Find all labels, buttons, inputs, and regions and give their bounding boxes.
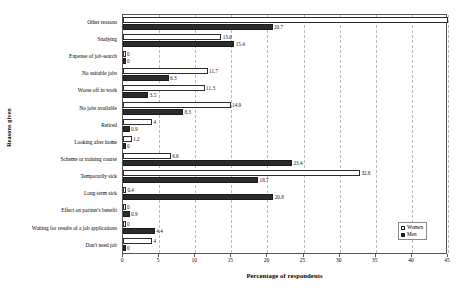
x-axis-tick-label: 25: [300, 258, 305, 263]
bar-men: [123, 228, 155, 234]
bar-women: [123, 34, 221, 40]
x-axis-ticks: 051015202530354045: [122, 254, 447, 266]
bar-value-label: 11.7: [209, 69, 218, 74]
bar-men: [123, 194, 273, 200]
bar-women: [123, 68, 208, 74]
y-axis-title-text: Reasons given: [5, 108, 12, 147]
bar-value-label: 0.9: [131, 212, 137, 217]
bar-value-label: 6.6: [172, 154, 178, 159]
y-axis-tick-label: Temporarily sick: [16, 168, 120, 185]
bar-value-label: 0: [127, 52, 130, 57]
bar-men: [123, 109, 183, 115]
bar-value-label: 0: [127, 144, 130, 149]
bar-chart: Reasons given Other reasonsStudyingExpen…: [0, 0, 457, 294]
x-axis-tick-label: 10: [192, 258, 197, 263]
y-axis-tick-label: Scheme or training course: [16, 151, 120, 168]
bar-value-label: 32.8: [361, 171, 370, 176]
bar-value-label: 0.4: [127, 188, 133, 193]
legend-swatch-icon: [401, 233, 405, 237]
bar-group: 20.7: [123, 15, 446, 32]
bar-value-label: 0.9: [131, 127, 137, 132]
x-axis-tick-label: 30: [336, 258, 341, 263]
y-axis-tick-label: Retired: [16, 117, 120, 134]
bar-value-label: 23.4: [294, 161, 303, 166]
bar-value-label: 18.7: [260, 178, 269, 183]
bar-value-label: 4: [153, 239, 156, 244]
plot-area: 20.713.615.40011.76.311.33.514.98.340.91…: [122, 14, 447, 254]
bar-value-label: 11.3: [206, 86, 215, 91]
bar-value-label: 20.7: [274, 25, 283, 30]
x-axis-tick-label: 45: [444, 258, 449, 263]
x-axis-tick-label: 35: [372, 258, 377, 263]
bar-value-label: 3.5: [150, 93, 156, 98]
bar-value-label: 0: [127, 205, 130, 210]
bar-men: [123, 24, 273, 30]
legend-item: Women: [401, 225, 423, 230]
bar-women: [123, 153, 171, 159]
bar-women: [123, 119, 152, 125]
x-axis-tick-label: 20: [264, 258, 269, 263]
bar-value-label: 20.8: [275, 195, 284, 200]
y-axis-tick-label: Worse off in work: [16, 83, 120, 100]
bar-value-label: 14.9: [232, 103, 241, 108]
bar-value-label: 1.2: [133, 137, 139, 142]
y-axis-tick-label: Waiting for results of a job application…: [16, 220, 120, 237]
bar-women: [123, 238, 152, 244]
bar-men: [123, 58, 126, 64]
legend-label: Men: [407, 232, 417, 237]
bar-group: 0.420.8: [123, 185, 446, 202]
bar-value-label: 0: [127, 246, 130, 251]
chart-legend: WomenMen: [398, 222, 427, 240]
bar-men: [123, 126, 130, 132]
bar-women: [123, 204, 126, 210]
bar-group: 40.9: [123, 117, 446, 134]
bar-women: [123, 85, 205, 91]
bar-women: [123, 221, 126, 227]
bar-group: 6.623.4: [123, 151, 446, 168]
y-axis-tick-labels: Other reasonsStudyingExpense of job-sear…: [16, 14, 120, 254]
bar-women: [123, 170, 360, 176]
gridline: [448, 15, 449, 253]
y-axis-tick-label: Other reasons: [16, 14, 120, 31]
bar-value-label: 4: [153, 120, 156, 125]
bar-value-label: 4.4: [156, 229, 162, 234]
bar-women: [123, 17, 448, 23]
bar-value-label: 0: [127, 222, 130, 227]
bar-group: 14.98.3: [123, 100, 446, 117]
x-axis-title: Percentage of respondents: [122, 272, 447, 279]
y-axis-tick-label: No suitable jobs: [16, 65, 120, 82]
bar-women: [123, 136, 132, 142]
bar-women: [123, 51, 126, 57]
bar-men: [123, 211, 130, 217]
x-axis-tick-label: 0: [121, 258, 124, 263]
x-axis-tick-label: 40: [408, 258, 413, 263]
y-axis-tick-label: Long-term sick: [16, 185, 120, 202]
bar-men: [123, 245, 126, 251]
bar-value-label: 6.3: [170, 76, 176, 81]
y-axis-tick-label: Don't need job: [16, 237, 120, 254]
bar-men: [123, 41, 234, 47]
bar-men: [123, 160, 292, 166]
bar-women: [123, 187, 126, 193]
bar-group: 13.615.4: [123, 32, 446, 49]
y-axis-tick-label: No jobs available: [16, 100, 120, 117]
bar-value-label: 8.3: [184, 110, 190, 115]
bar-men: [123, 177, 258, 183]
bar-group: 00.9: [123, 202, 446, 219]
bar-group: 1.20: [123, 134, 446, 151]
x-axis-tick-label: 15: [228, 258, 233, 263]
y-axis-tick-label: Looking after home: [16, 134, 120, 151]
bar-value-label: 13.6: [223, 35, 232, 40]
bar-women: [123, 102, 231, 108]
bar-value-label: 0: [127, 59, 130, 64]
bar-group: 11.33.5: [123, 83, 446, 100]
bar-men: [123, 75, 169, 81]
x-axis-tick-label: 5: [157, 258, 160, 263]
bar-men: [123, 143, 126, 149]
legend-label: Women: [407, 225, 423, 230]
y-axis-tick-label: Expense of job-search: [16, 48, 120, 65]
bar-value-label: 15.4: [236, 42, 245, 47]
bar-group: 32.818.7: [123, 168, 446, 185]
bar-rows: 20.713.615.40011.76.311.33.514.98.340.91…: [123, 15, 446, 253]
bar-group: 11.76.3: [123, 66, 446, 83]
